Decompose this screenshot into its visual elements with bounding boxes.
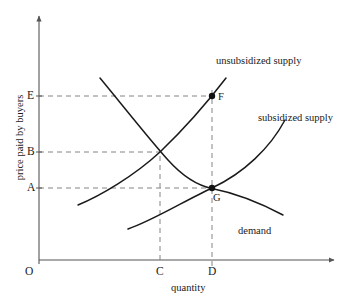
point-F-marker — [209, 93, 215, 99]
unsubsidized-supply-label: unsubsidized supply — [216, 56, 301, 67]
y-tick-label-A: A — [27, 182, 35, 194]
x-axis-title: quantity — [171, 283, 205, 294]
demand-curve — [100, 78, 283, 215]
y-tick-label-E: E — [27, 90, 34, 102]
plot-canvas — [0, 0, 356, 301]
subsidized-supply-label: subsidized supply — [258, 113, 333, 124]
supply-demand-figure: E B A O C D unsubsidized supply subsidiz… — [0, 0, 356, 301]
y-tick-label-B: B — [27, 146, 35, 158]
y-axis-title: price paid by buyers — [14, 78, 25, 198]
demand-label: demand — [238, 226, 271, 237]
point-label-F: F — [218, 92, 224, 103]
origin-label: O — [25, 266, 33, 278]
point-label-G: G — [213, 193, 221, 204]
subsidized-supply-curve — [128, 120, 285, 229]
x-tick-label-D: D — [208, 266, 216, 278]
x-tick-label-C: C — [156, 266, 164, 278]
point-G-marker — [209, 185, 215, 191]
